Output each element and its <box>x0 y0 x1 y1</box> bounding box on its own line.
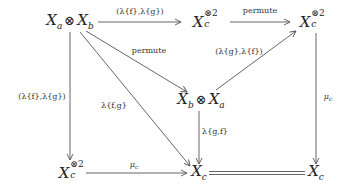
node-xc-bottom-right: Xc <box>308 164 324 182</box>
label-tl-bm: λ{f,g} <box>101 101 127 110</box>
node-xb-tensor-xa: Xb⊗Xa <box>177 92 224 110</box>
node-base: X <box>308 162 319 180</box>
node-sub: a <box>219 100 224 110</box>
arrow-mid-to-tr <box>216 31 296 90</box>
node-base: X <box>193 13 204 31</box>
node-sub: c <box>202 172 207 182</box>
node-sub: c <box>204 20 209 29</box>
node-base: X <box>177 90 188 108</box>
node-xc-tensor2-top-right: X⊗2c <box>300 15 327 30</box>
node-sub: c <box>70 171 75 180</box>
mu-sub: c <box>135 163 138 170</box>
mu-sub: c <box>329 95 332 102</box>
label-bl-bm: μc <box>130 160 139 171</box>
node-sub: c <box>319 172 324 182</box>
label-tl-mid: permute <box>132 46 166 55</box>
node-base: X <box>59 164 70 182</box>
label-tl-bl: (λ{f},λ{g}) <box>18 92 65 101</box>
node-sup: ⊗2 <box>70 160 83 169</box>
label-tm-tr: permute <box>243 6 277 15</box>
label-mid-tr: (λ{g},λ{f}) <box>215 47 262 56</box>
node-base: X <box>77 11 88 29</box>
node-xc-tensor2-top-mid: X⊗2c <box>193 15 220 30</box>
node-base: X <box>209 90 220 108</box>
node-sup: ⊗2 <box>311 9 324 18</box>
label-mid-bm: λ{g,f} <box>202 127 228 136</box>
node-base: X <box>46 11 57 29</box>
label-tr-br: μc <box>324 92 333 103</box>
node-xc-bottom-mid: Xc <box>191 164 207 182</box>
node-sub: b <box>188 100 194 110</box>
node-sup: ⊗2 <box>204 9 217 18</box>
node-base: X <box>300 13 311 31</box>
node-xc-tensor2-bottom-left: X⊗2c <box>59 166 86 181</box>
tensor-symbol: ⊗ <box>64 13 75 28</box>
tensor-symbol: ⊗ <box>196 92 207 107</box>
label-tl-tm: (λ{f},λ{g}) <box>116 7 163 16</box>
node-sub: b <box>88 21 94 31</box>
node-xa-tensor-xb: Xa⊗Xb <box>46 13 93 31</box>
node-base: X <box>191 162 202 180</box>
node-sub: a <box>57 21 62 31</box>
node-sub: c <box>311 20 316 29</box>
arrow-tl-to-mid <box>86 31 187 92</box>
